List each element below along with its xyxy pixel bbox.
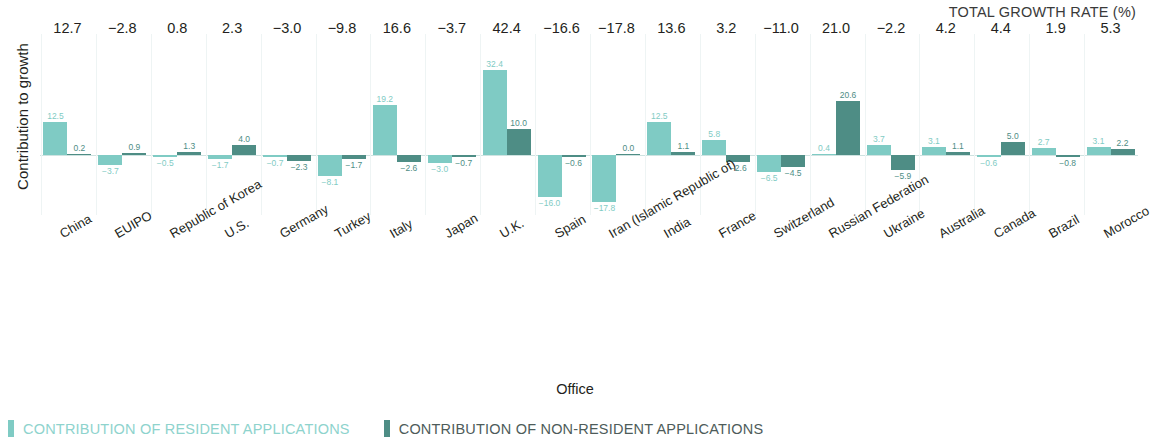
bar-label-non-resident: 2.2 <box>1108 138 1138 148</box>
bar-label-resident: −3.7 <box>95 166 125 176</box>
gridline <box>865 34 866 215</box>
chart-figure: TOTAL GROWTH RATE (%) Contribution to gr… <box>0 0 1150 448</box>
bar-non-resident-contribution <box>177 152 201 155</box>
bar-label-non-resident: 1.1 <box>668 141 698 151</box>
total-growth-value: −2.2 <box>864 20 919 36</box>
x-axis-tick-label: U.K. <box>497 215 526 241</box>
bar-label-non-resident: 4.0 <box>229 134 259 144</box>
bar-label-resident: −1.7 <box>205 160 235 170</box>
bar-label-non-resident: −1.7 <box>339 160 369 170</box>
total-growth-value: 12.7 <box>40 20 95 36</box>
bar-group: 1.92.7−0.8 <box>1028 20 1083 215</box>
x-axis-tick-label: Brazil <box>1046 212 1082 241</box>
bar-non-resident-contribution <box>1111 149 1135 155</box>
legend-item-resident: CONTRIBUTION OF RESIDENT APPLICATIONS <box>8 420 350 437</box>
bar-non-resident-contribution <box>67 154 91 156</box>
total-growth-value: 0.8 <box>150 20 205 36</box>
bar-label-resident: 2.7 <box>1029 137 1059 147</box>
bar-resident-contribution <box>812 154 836 156</box>
bar-non-resident-contribution <box>397 155 421 162</box>
bar-label-non-resident: 20.6 <box>833 90 863 100</box>
gridline <box>1029 34 1030 215</box>
bar-non-resident-contribution <box>507 129 531 155</box>
total-growth-value: −3.7 <box>424 20 479 36</box>
gridline <box>96 34 97 215</box>
bar-non-resident-contribution <box>122 153 146 155</box>
chart-legend: CONTRIBUTION OF RESIDENT APPLICATIONS CO… <box>8 420 763 437</box>
bar-non-resident-contribution <box>287 155 311 161</box>
bar-group: 21.00.420.6 <box>809 20 864 215</box>
gridline <box>645 34 646 215</box>
bar-label-non-resident: −2.6 <box>394 163 424 173</box>
total-growth-value: 16.6 <box>369 20 424 36</box>
bar-label-resident: 12.5 <box>644 111 674 121</box>
gridline <box>974 34 975 215</box>
total-growth-rate-title: TOTAL GROWTH RATE (%) <box>949 4 1136 20</box>
bar-resident-contribution <box>867 145 891 155</box>
gridline <box>316 34 317 215</box>
total-growth-value: 42.4 <box>479 20 534 36</box>
bar-non-resident-contribution <box>1056 155 1080 157</box>
bar-resident-contribution <box>208 155 232 159</box>
bar-resident-contribution <box>483 70 507 155</box>
total-growth-value: 13.6 <box>644 20 699 36</box>
bar-group: 16.619.2−2.6 <box>369 20 424 215</box>
bar-resident-contribution <box>702 140 726 155</box>
x-axis-tick-label: U.S. <box>222 215 251 241</box>
total-growth-value: 2.3 <box>205 20 260 36</box>
x-axis-tick-label: India <box>661 214 693 241</box>
bar-group: 12.712.50.2 <box>40 20 95 215</box>
bar-group: 42.432.410.0 <box>479 20 534 215</box>
bar-non-resident-contribution <box>891 155 915 170</box>
bar-group: 5.33.12.2 <box>1083 20 1138 215</box>
bar-label-resident: 19.2 <box>370 94 400 104</box>
bar-label-non-resident: −0.6 <box>559 158 589 168</box>
total-growth-value: 5.3 <box>1083 20 1138 36</box>
bar-resident-contribution <box>1032 148 1056 155</box>
bar-group: −17.8−17.80.0 <box>589 20 644 215</box>
bar-resident-contribution <box>977 155 1001 157</box>
bar-non-resident-contribution <box>232 145 256 155</box>
bar-label-non-resident: 10.0 <box>504 118 534 128</box>
gridline <box>425 34 426 215</box>
bar-label-non-resident: −0.7 <box>449 158 479 168</box>
gridline <box>1084 34 1085 215</box>
y-axis-title: Contribution to growth <box>14 22 31 212</box>
gridline <box>41 34 42 215</box>
bar-label-resident: 32.4 <box>480 59 510 69</box>
bar-label-non-resident: 1.3 <box>174 141 204 151</box>
bar-label-resident: −8.1 <box>315 177 345 187</box>
total-growth-value: 3.2 <box>699 20 754 36</box>
bar-group: −9.8−8.1−1.7 <box>315 20 370 215</box>
bar-resident-contribution <box>373 105 397 155</box>
total-growth-value: 4.2 <box>918 20 973 36</box>
gridline <box>151 34 152 215</box>
bar-non-resident-contribution <box>452 155 476 157</box>
gridline <box>590 34 591 215</box>
total-growth-value: 1.9 <box>1028 20 1083 36</box>
bar-non-resident-contribution <box>342 155 366 159</box>
bar-resident-contribution <box>98 155 122 165</box>
bar-group: −2.8−3.70.9 <box>95 20 150 215</box>
legend-label-resident: CONTRIBUTION OF RESIDENT APPLICATIONS <box>23 421 350 437</box>
bar-group: 0.8−0.51.3 <box>150 20 205 215</box>
gridline <box>206 34 207 215</box>
bar-non-resident-contribution <box>671 152 695 155</box>
total-growth-value: 21.0 <box>809 20 864 36</box>
bar-label-non-resident: 0.2 <box>64 143 94 153</box>
bar-label-non-resident: −4.5 <box>778 168 808 178</box>
bar-group: −11.0−6.5−4.5 <box>754 20 809 215</box>
x-axis-title: Office <box>0 381 1150 397</box>
plot-area: 12.712.50.2−2.8−3.70.90.8−0.51.32.3−1.74… <box>40 20 1138 215</box>
bar-label-non-resident: 0.0 <box>613 143 643 153</box>
bar-label-resident: −17.8 <box>589 203 619 213</box>
bar-label-resident: 3.7 <box>864 134 894 144</box>
bar-label-non-resident: 1.1 <box>943 141 973 151</box>
bar-resident-contribution <box>263 155 287 157</box>
bar-non-resident-contribution <box>781 155 805 167</box>
bar-label-resident: 12.5 <box>40 111 70 121</box>
bar-label-resident: 5.8 <box>699 129 729 139</box>
total-growth-value: −2.8 <box>95 20 150 36</box>
total-growth-value: −11.0 <box>754 20 809 36</box>
total-growth-value: −17.8 <box>589 20 644 36</box>
